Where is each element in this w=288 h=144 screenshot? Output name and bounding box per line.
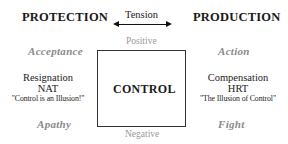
quadrant-acceptance: Acceptance	[28, 45, 83, 57]
right-quote: "The Illusion of Control"	[188, 94, 288, 104]
protection-title: PROTECTION	[22, 10, 108, 25]
hrt-label: HRT	[188, 83, 288, 94]
nat-label: NAT	[0, 83, 96, 94]
quadrant-apathy: Apathy	[37, 118, 71, 130]
tension-label: Tension	[125, 9, 158, 20]
compensation-label: Compensation	[188, 72, 288, 83]
positive-axis-label: Positive	[126, 36, 157, 46]
control-label: CONTROL	[113, 82, 176, 97]
right-column: Compensation HRT "The Illusion of Contro…	[188, 72, 288, 104]
production-title: PRODUCTION	[193, 10, 280, 25]
negative-axis-label: Negative	[125, 129, 159, 139]
left-quote: "Control is an Illusion!"	[0, 94, 96, 104]
quadrant-action: Action	[218, 45, 250, 57]
resignation-label: Resignation	[0, 72, 96, 83]
quadrant-fight: Fight	[218, 118, 245, 130]
left-column: Resignation NAT "Control is an Illusion!…	[0, 72, 96, 104]
